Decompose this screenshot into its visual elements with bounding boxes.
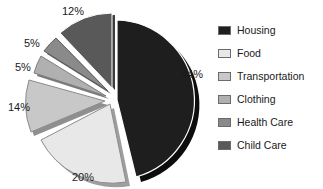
legend-swatch-transportation — [218, 72, 231, 81]
legend-label-child-care: Child Care — [237, 140, 287, 151]
data-label-clothing: 5% — [15, 62, 31, 73]
legend-item-child-care[interactable]: Child Care — [218, 139, 287, 151]
legend-label-health-care: Health Care — [237, 117, 293, 128]
pie-slice-housing[interactable] — [117, 20, 199, 182]
legend-swatch-health-care — [218, 118, 231, 127]
data-label-child-care: 12% — [62, 6, 84, 17]
legend-swatch-housing — [218, 26, 231, 35]
legend-label-housing: Housing — [237, 25, 276, 36]
data-label-housing: 44% — [181, 69, 203, 80]
legend-item-clothing[interactable]: Clothing — [218, 93, 276, 105]
data-label-health-care: 5% — [24, 38, 40, 49]
data-label-food: 20% — [72, 172, 94, 183]
legend-label-food: Food — [237, 48, 261, 59]
legend-swatch-food — [218, 49, 231, 58]
legend-item-food[interactable]: Food — [218, 47, 261, 59]
legend-item-housing[interactable]: Housing — [218, 24, 276, 36]
pie-chart-svg — [0, 0, 215, 189]
pie-chart-plot: 44% 20% 14% 5% 5% 12% — [0, 0, 215, 189]
pie-chart-screenshot: 44% 20% 14% 5% 5% 12% Housing Food Trans… — [0, 0, 323, 189]
legend-item-health-care[interactable]: Health Care — [218, 116, 293, 128]
legend-item-transportation[interactable]: Transportation — [218, 70, 304, 82]
legend-swatch-child-care — [218, 141, 231, 150]
legend-label-clothing: Clothing — [237, 94, 276, 105]
chart-legend: Housing Food Transportation Clothing Hea… — [218, 24, 323, 169]
legend-label-transportation: Transportation — [237, 71, 304, 82]
data-label-transportation: 14% — [8, 102, 30, 113]
legend-swatch-clothing — [218, 95, 231, 104]
